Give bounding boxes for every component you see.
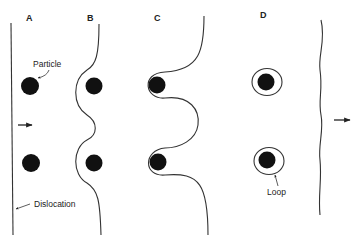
panel-d: Loop bbox=[252, 20, 350, 215]
particle-bottom bbox=[259, 152, 276, 169]
particle-bottom bbox=[86, 155, 103, 172]
straight-dislocation-line bbox=[11, 23, 13, 235]
particle-bottom bbox=[150, 154, 167, 171]
bowed-dislocation-line bbox=[148, 16, 208, 235]
particle-annotation: Particle bbox=[33, 59, 62, 69]
released-dislocation-line bbox=[319, 20, 322, 215]
particle-top bbox=[149, 77, 166, 94]
loop-annotation: Loop bbox=[267, 187, 286, 197]
loop-pointer-arrow bbox=[275, 175, 278, 186]
panel-c bbox=[148, 16, 208, 235]
panel-b bbox=[76, 24, 103, 235]
particle-top bbox=[21, 77, 39, 95]
particle-pointer-arrow bbox=[38, 70, 49, 78]
dislocation-annotation: Dislocation bbox=[34, 199, 76, 209]
particle-top bbox=[258, 74, 275, 91]
panel-label-c: C bbox=[154, 13, 161, 23]
bowed-dislocation-line bbox=[76, 24, 101, 235]
panel-a: Particle Dislocation bbox=[11, 23, 76, 235]
panel-label-a: A bbox=[26, 13, 33, 23]
particle-top bbox=[86, 78, 103, 95]
dislocation-pointer-arrow bbox=[16, 204, 30, 209]
panel-label-d: D bbox=[260, 10, 267, 20]
orowan-bowing-diagram: A B C D Particle Dislocation Loop bbox=[0, 0, 361, 246]
particle-bottom bbox=[22, 154, 40, 172]
panel-label-b: B bbox=[87, 13, 94, 23]
